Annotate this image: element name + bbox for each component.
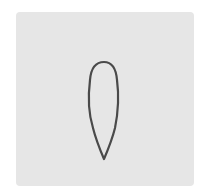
figure-canvas <box>0 0 202 196</box>
petal-outline-icon <box>0 0 202 196</box>
petal-outline <box>89 62 118 159</box>
